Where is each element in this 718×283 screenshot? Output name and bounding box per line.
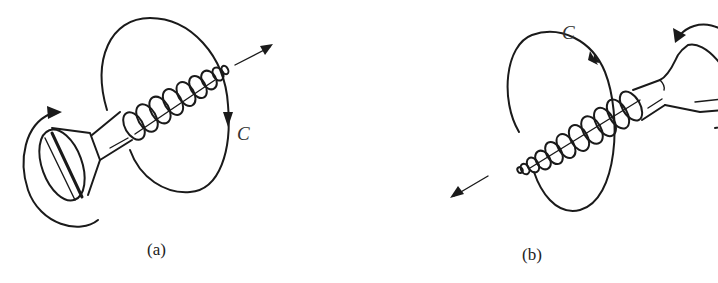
loop-arrowhead-a bbox=[223, 112, 233, 127]
panel-b: C (b) bbox=[360, 0, 718, 283]
circulation-label-b: C bbox=[562, 22, 575, 44]
screw-threads-b bbox=[516, 88, 646, 176]
panel-a: C (a) bbox=[0, 0, 360, 283]
screw-head-b bbox=[660, 44, 718, 112]
screw-threads-a bbox=[119, 65, 230, 144]
screw-diagram-a bbox=[0, 0, 360, 283]
circulation-loop-b bbox=[508, 32, 615, 211]
caption-b: (b) bbox=[522, 245, 542, 265]
screw-head-a bbox=[31, 123, 100, 206]
caption-a: (a) bbox=[147, 240, 166, 260]
circulation-label-a: C bbox=[237, 123, 250, 145]
screw-diagram-b bbox=[360, 0, 718, 283]
